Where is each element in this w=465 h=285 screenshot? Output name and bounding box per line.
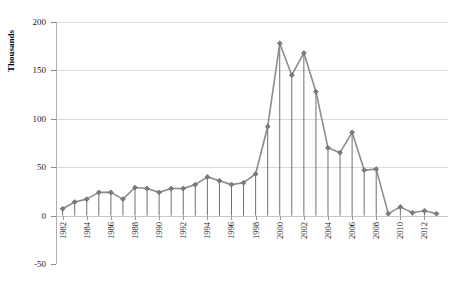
data-point-marker (277, 41, 282, 46)
y-tick-label-0: 0 (16, 211, 46, 221)
data-point-marker (217, 178, 222, 183)
x-tick-mark (304, 216, 305, 220)
y-tick-label-150: 150 (16, 65, 46, 75)
x-tick-mark (207, 216, 208, 220)
y-axis-title: Thousands (6, 30, 16, 72)
data-point-marker (169, 186, 174, 191)
y-tick-label--50: -50 (16, 259, 46, 269)
x-tick-label-1996: 1996 (226, 222, 236, 239)
x-tick-label-2004: 2004 (323, 222, 333, 239)
data-point-marker (314, 89, 319, 94)
x-tick-mark (111, 216, 112, 220)
data-point-marker (181, 186, 186, 191)
x-tick-label-2012: 2012 (419, 222, 429, 239)
data-point-marker (157, 190, 162, 195)
series-polyline (63, 43, 437, 213)
data-point-marker (362, 168, 367, 173)
data-point-marker (145, 186, 150, 191)
y-tick-mark (51, 264, 56, 265)
x-tick-mark (376, 216, 377, 220)
y-tick-label-100: 100 (16, 114, 46, 124)
data-point-marker (326, 145, 331, 150)
x-tick-mark (400, 216, 401, 220)
x-tick-mark (352, 216, 353, 220)
data-point-marker (434, 211, 439, 216)
data-point-marker (422, 208, 427, 213)
y-tick-label-50: 50 (16, 162, 46, 172)
x-tick-label-1990: 1990 (154, 222, 164, 239)
x-tick-mark (63, 216, 64, 220)
x-tick-label-1982: 1982 (58, 222, 68, 239)
data-point-marker (265, 124, 270, 129)
x-tick-mark (256, 216, 257, 220)
x-tick-label-1998: 1998 (251, 222, 261, 239)
x-tick-label-1992: 1992 (178, 222, 188, 239)
data-point-marker (374, 167, 379, 172)
x-tick-mark (328, 216, 329, 220)
x-tick-label-1988: 1988 (130, 222, 140, 239)
y-tick-label-200: 200 (16, 17, 46, 27)
x-tick-label-1986: 1986 (106, 222, 116, 239)
x-tick-label-2000: 2000 (275, 222, 285, 239)
x-tick-mark (87, 216, 88, 220)
x-tick-mark (135, 216, 136, 220)
x-tick-label-2006: 2006 (347, 222, 357, 239)
x-tick-label-1984: 1984 (82, 222, 92, 239)
data-point-marker (229, 182, 234, 187)
x-tick-mark (280, 216, 281, 220)
chart-container: Thousands 200150100500-50 19821984198619… (0, 0, 465, 285)
x-tick-mark (159, 216, 160, 220)
x-tick-mark (231, 216, 232, 220)
x-tick-label-2008: 2008 (371, 222, 381, 239)
x-tick-mark (424, 216, 425, 220)
x-tick-label-1994: 1994 (202, 222, 212, 239)
x-tick-mark (183, 216, 184, 220)
x-tick-label-2002: 2002 (299, 222, 309, 239)
x-tick-label-2010: 2010 (395, 222, 405, 239)
